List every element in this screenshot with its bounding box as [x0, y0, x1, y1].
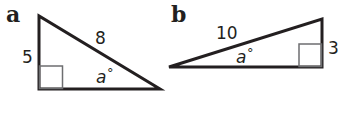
diagram-canvas: a 5 8 a ° b 10 3 a ° — [0, 0, 341, 117]
side-label-10: 10 — [216, 23, 238, 43]
right-angle-marker-icon — [299, 44, 322, 67]
degree-symbol: ° — [107, 65, 114, 80]
angle-label-a: a — [96, 67, 106, 87]
side-label-8: 8 — [95, 28, 106, 48]
angle-label-a: a — [236, 47, 246, 67]
right-angle-marker-icon — [40, 66, 63, 89]
part-label-a: a — [6, 1, 20, 27]
side-label-5: 5 — [22, 47, 33, 67]
triangle-a: a 5 8 a ° — [6, 1, 160, 89]
triangle-b: b 10 3 a ° — [169, 1, 339, 67]
side-label-3: 3 — [328, 38, 339, 58]
part-label-b: b — [171, 1, 186, 27]
degree-symbol: ° — [247, 45, 254, 60]
